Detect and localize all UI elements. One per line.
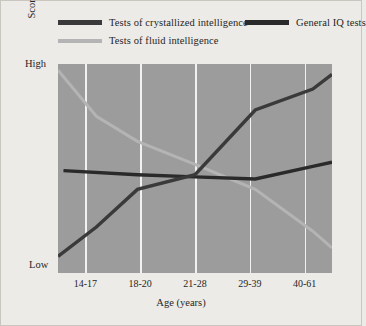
legend-swatch-general-iq: [245, 20, 289, 25]
legend-item-fluid: Tests of fluid intelligence: [58, 35, 219, 46]
series-lines: [58, 64, 332, 273]
y-axis-high-label: High: [25, 58, 46, 69]
plot-area: [58, 64, 332, 273]
legend-swatch-crystallized: [58, 20, 102, 25]
legend-swatch-fluid: [58, 39, 102, 43]
legend-label-general-iq: General IQ tests: [296, 17, 366, 28]
x-tick-21-28: 21-28: [183, 278, 206, 289]
legend-label-crystallized: Tests of crystallized intelligence: [109, 17, 248, 28]
legend-label-fluid: Tests of fluid intelligence: [109, 35, 219, 46]
x-axis-title: Age (years): [1, 297, 361, 308]
x-tick-14-17: 14-17: [74, 278, 97, 289]
y-axis-title: Score: [26, 0, 37, 37]
legend-item-crystallized: Tests of crystallized intelligence: [58, 17, 248, 28]
y-axis-low-label: Low: [29, 259, 48, 270]
chart-legend: Tests of crystallized intelligence Gener…: [1, 17, 363, 57]
x-axis-ticks: 14-1718-2021-2829-3940-61: [58, 278, 332, 292]
x-tick-40-61: 40-61: [293, 278, 316, 289]
legend-item-general-iq: General IQ tests: [245, 17, 366, 28]
x-tick-18-20: 18-20: [129, 278, 152, 289]
x-tick-29-39: 29-39: [238, 278, 261, 289]
